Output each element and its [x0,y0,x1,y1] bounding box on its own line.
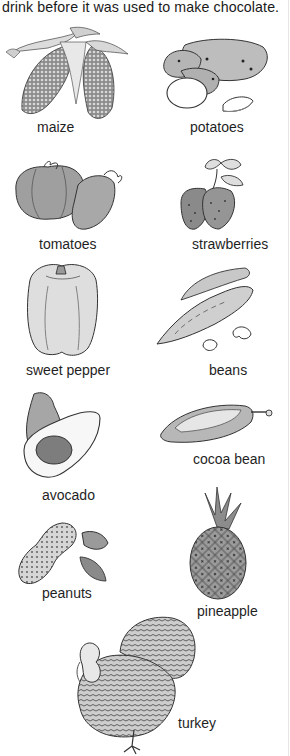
maize-icon [0,22,145,132]
maize-label: maize [37,119,74,135]
cocoa-bean-icon [145,400,290,450]
peanuts-icon [0,515,145,585]
beans-label: beans [209,362,247,378]
item-strawberries: strawberries [145,155,290,260]
avocado-label: avocado [42,487,95,503]
item-beans: beans [145,258,290,388]
sweet-pepper-label: sweet pepper [26,362,110,378]
turkey-icon [60,612,240,756]
turkey-label: turkey [178,715,216,731]
item-sweet-pepper: sweet pepper [0,258,145,388]
item-potatoes: potatoes [145,35,290,150]
sweet-pepper-icon [0,258,145,358]
item-avocado: avocado [0,388,145,508]
tomatoes-icon [0,155,145,235]
item-turkey: turkey [60,612,240,756]
item-maize: maize [0,22,145,152]
pineapple-icon [145,485,290,595]
strawberries-icon [145,155,290,235]
item-peanuts: peanuts [0,515,145,615]
caption-text: drink before it was used to make chocola… [2,0,288,15]
strawberries-label: strawberries [192,236,268,252]
item-tomatoes: tomatoes [0,155,145,260]
potatoes-icon [145,35,290,125]
cocoa-bean-label: cocoa bean [193,451,265,467]
item-pineapple: pineapple [145,485,290,625]
tomatoes-label: tomatoes [39,236,97,252]
potatoes-label: potatoes [190,119,244,135]
beans-icon [145,258,290,358]
avocado-icon [0,388,145,483]
peanuts-label: peanuts [42,585,92,601]
